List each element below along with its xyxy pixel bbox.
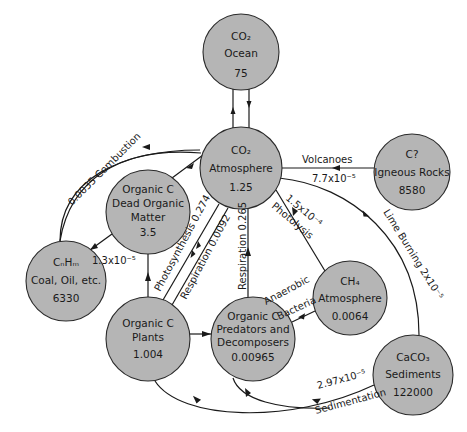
svg-text:Predators and: Predators and <box>216 323 289 335</box>
svg-text:Dead Organic: Dead Organic <box>112 197 184 209</box>
node-igneous-rocks: C? Igneous Rocks 8580 <box>374 134 450 210</box>
svg-text:Ocean: Ocean <box>224 47 258 59</box>
svg-text:75: 75 <box>234 67 247 79</box>
svg-text:0.00965: 0.00965 <box>231 351 274 363</box>
label-lime-burning: Lime Burning 2x10⁻⁵ <box>381 207 445 301</box>
svg-text:Decomposers: Decomposers <box>217 336 289 348</box>
edge-decay <box>172 155 203 178</box>
svg-text:Coal, Oil, etc.: Coal, Oil, etc. <box>31 274 101 286</box>
svg-text:0.0064: 0.0064 <box>332 310 369 322</box>
node-co2-atmosphere: CO₂ Atmosphere 1.25 <box>200 127 282 209</box>
node-fossil-fuels: CₙHₘ Coal, Oil, etc. 6330 <box>26 241 106 321</box>
label-volcanoes: Volcanoes <box>302 154 352 165</box>
svg-text:8580: 8580 <box>399 184 426 196</box>
svg-text:Igneous Rocks: Igneous Rocks <box>374 166 449 178</box>
svg-text:Sediments: Sediments <box>385 368 441 380</box>
node-plants: Organic C Plants 1.004 <box>106 297 190 381</box>
svg-text:CH₄: CH₄ <box>340 275 359 287</box>
label-sedimentation: Sedimentation <box>314 386 387 416</box>
svg-text:Organic C: Organic C <box>227 310 279 322</box>
label-respiration-decomposers: Respiration 0.265 <box>237 202 248 290</box>
edge-ocean-atmosphere-exchange <box>231 89 252 128</box>
svg-text:CO₂: CO₂ <box>231 30 251 42</box>
svg-text:1.004: 1.004 <box>133 348 163 360</box>
label-fossil-burial: 1.3x10⁻⁵ <box>92 255 136 266</box>
svg-text:Atmosphere: Atmosphere <box>318 292 382 304</box>
label-volcanoes-value: 7.7x10⁻⁵ <box>312 173 356 184</box>
label-sedimentation-value: 2.97x10⁻⁵ <box>316 367 367 391</box>
svg-text:CaCO₃: CaCO₃ <box>396 351 430 363</box>
svg-text:CₙHₘ: CₙHₘ <box>53 256 79 268</box>
node-co2-ocean: CO₂ Ocean 75 <box>203 14 279 90</box>
carbon-cycle-diagram: CO₂ Ocean 75 CO₂ Atmosphere 1.25 C? Igne… <box>0 0 467 432</box>
svg-text:6330: 6330 <box>53 292 80 304</box>
svg-text:Atmosphere: Atmosphere <box>209 162 273 174</box>
svg-text:1.25: 1.25 <box>229 181 252 193</box>
svg-text:Plants: Plants <box>132 331 164 343</box>
svg-text:CO₂: CO₂ <box>231 144 251 156</box>
node-sediments: CaCO₃ Sediments 122000 <box>373 335 453 415</box>
svg-text:122000: 122000 <box>393 386 433 398</box>
svg-text:Matter: Matter <box>131 211 166 223</box>
svg-text:3.5: 3.5 <box>140 226 157 238</box>
svg-text:Organic C: Organic C <box>122 183 174 195</box>
svg-text:Organic C: Organic C <box>122 317 174 329</box>
svg-text:C?: C? <box>406 148 419 160</box>
node-ch4-atmosphere: CH₄ Atmosphere 0.0064 <box>313 261 387 335</box>
